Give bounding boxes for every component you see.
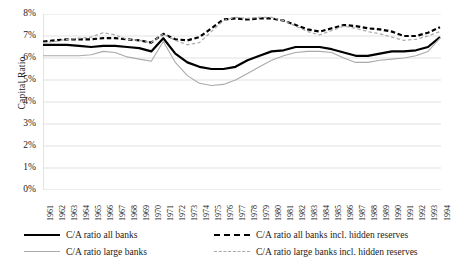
x-tick-label: 1994	[444, 205, 452, 221]
y-tick-label: 3%	[2, 119, 36, 129]
x-tick-label: 1971	[167, 205, 175, 221]
y-tick-label: 2%	[2, 141, 36, 151]
x-tick-label: 1987	[359, 205, 367, 221]
x-tick-label: 1968	[131, 205, 139, 221]
legend-label: C/A ratio all banks	[66, 230, 138, 240]
legend-item[interactable]: C/A ratio large banks incl. hidden reser…	[214, 247, 444, 257]
x-tick-label: 1977	[239, 205, 247, 221]
x-tick-label: 1993	[431, 205, 439, 221]
x-tick-label: 1974	[203, 205, 211, 221]
series-line-2	[43, 18, 440, 42]
x-tick-label: 1988	[371, 205, 379, 221]
x-tick-label: 1962	[59, 205, 67, 221]
legend-item[interactable]: C/A ratio all banks incl. hidden reserve…	[214, 230, 444, 240]
x-tick-label: 1963	[71, 205, 79, 221]
data-series-layer	[43, 14, 441, 190]
y-tick-label: 6%	[2, 53, 36, 63]
legend-swatch-icon	[24, 251, 60, 252]
x-tick-label: 1976	[227, 205, 235, 221]
y-tick-label: 8%	[2, 9, 36, 19]
x-axis-tick-labels: 1961196219631964196519661967196819691970…	[43, 192, 441, 226]
x-tick-label: 1970	[155, 205, 163, 221]
legend-item[interactable]: C/A ratio all banks	[24, 230, 214, 240]
legend-swatch-icon	[214, 251, 250, 252]
legend-label: C/A ratio large banks	[66, 247, 147, 257]
chart-legend: C/A ratio all banksC/A ratio all banks i…	[24, 226, 444, 260]
x-tick-label: 1986	[347, 205, 355, 221]
x-tick-label: 1983	[311, 205, 319, 221]
x-tick-label: 1985	[335, 205, 343, 221]
legend-item[interactable]: C/A ratio large banks	[24, 247, 214, 257]
x-tick-label: 1981	[287, 205, 295, 221]
x-tick-label: 1991	[407, 205, 415, 221]
legend-swatch-icon	[214, 234, 250, 236]
x-tick-label: 1967	[119, 205, 127, 221]
series-line-0	[43, 37, 440, 69]
x-tick-label: 1984	[323, 205, 331, 221]
x-tick-label: 1978	[251, 205, 259, 221]
x-tick-label: 1966	[107, 205, 115, 221]
x-tick-label: 1982	[299, 205, 307, 221]
x-tick-label: 1975	[215, 205, 223, 221]
x-tick-label: 1969	[143, 205, 151, 221]
x-tick-label: 1965	[95, 205, 103, 221]
y-tick-label: 0%	[2, 185, 36, 195]
x-tick-label: 1973	[191, 205, 199, 221]
legend-swatch-icon	[24, 234, 60, 236]
x-tick-label: 1972	[179, 205, 187, 221]
x-tick-label: 1964	[83, 205, 91, 221]
x-tick-label: 1989	[383, 205, 391, 221]
y-tick-label: 1%	[2, 163, 36, 173]
legend-label: C/A ratio large banks incl. hidden reser…	[256, 247, 418, 257]
series-line-3	[43, 17, 440, 45]
y-tick-label: 4%	[2, 97, 36, 107]
plot-area	[43, 14, 441, 190]
x-tick-label: 1961	[47, 205, 55, 221]
x-tick-label: 1980	[275, 205, 283, 221]
y-tick-label: 5%	[2, 75, 36, 85]
x-tick-label: 1990	[395, 205, 403, 221]
legend-label: C/A ratio all banks incl. hidden reserve…	[256, 230, 408, 240]
x-tick-label: 1992	[419, 205, 427, 221]
x-tick-label: 1979	[263, 205, 271, 221]
y-tick-label: 7%	[2, 31, 36, 41]
